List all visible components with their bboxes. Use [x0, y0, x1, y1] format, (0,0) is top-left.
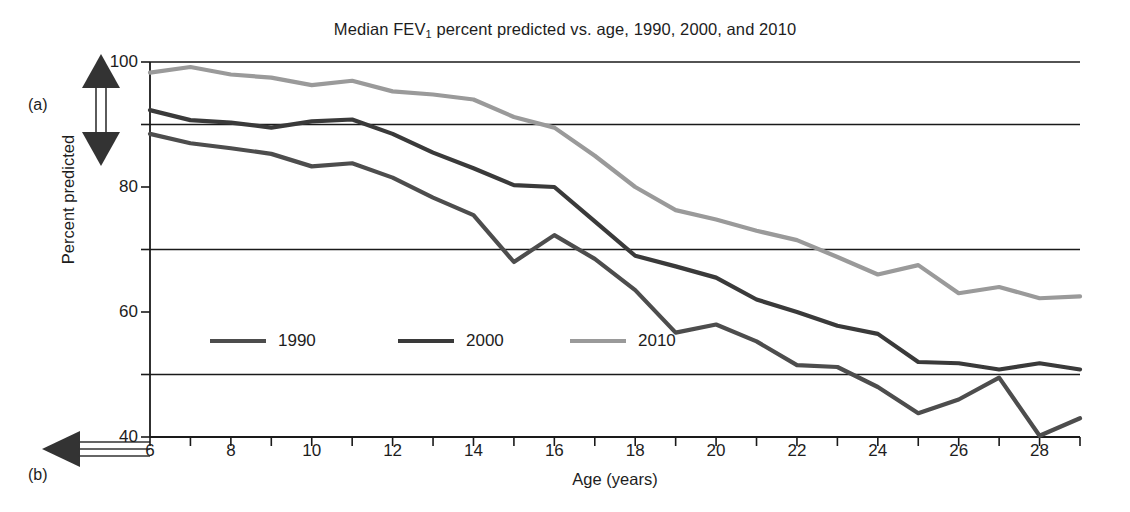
x-tick-label: 10	[292, 441, 332, 461]
legend-label-1990: 1990	[278, 331, 316, 351]
legend-label-2010: 2010	[638, 331, 676, 351]
y-tick-label: 100	[92, 52, 138, 72]
x-tick-label: 24	[858, 441, 898, 461]
x-tick-label: 16	[534, 441, 574, 461]
x-tick-label: 12	[373, 441, 413, 461]
x-tick-label: 8	[211, 441, 251, 461]
legend-label-2000: 2000	[466, 331, 504, 351]
x-tick-label: 26	[939, 441, 979, 461]
x-tick-label: 6	[130, 441, 170, 461]
x-tick-label: 18	[615, 441, 655, 461]
figure-container: Median FEV1 percent predicted vs. age, 1…	[0, 0, 1130, 512]
x-tick-label: 20	[696, 441, 736, 461]
y-tick-label: 60	[92, 302, 138, 322]
chart-overlay-labels: 4060801006810121416182022242628199020002…	[0, 0, 1130, 512]
y-tick-label: 80	[92, 177, 138, 197]
x-tick-label: 14	[453, 441, 493, 461]
x-tick-label: 28	[1020, 441, 1060, 461]
x-tick-label: 22	[777, 441, 817, 461]
